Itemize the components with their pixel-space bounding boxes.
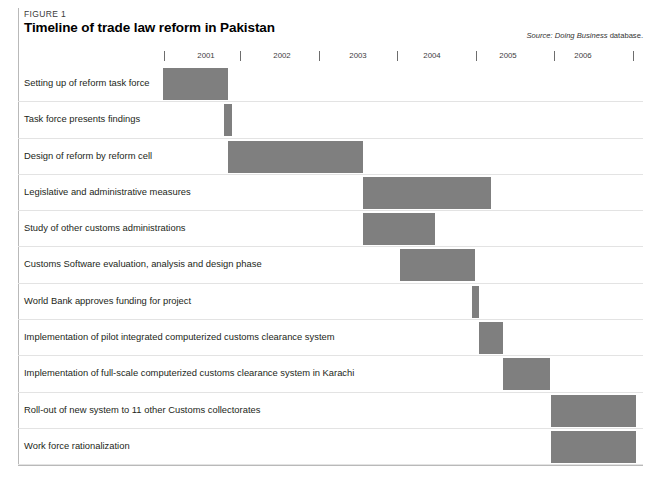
gantt-row-label: Roll-out of new system to 11 other Custo…	[24, 404, 260, 416]
gantt-row-label: Customs Software evaluation, analysis an…	[24, 258, 262, 270]
gantt-bar[interactable]	[400, 249, 475, 281]
gantt-bar[interactable]	[503, 358, 550, 390]
gantt-bar[interactable]	[224, 104, 232, 136]
gantt-bar[interactable]	[163, 68, 228, 100]
gantt-row-label: Implementation of pilot integrated compu…	[24, 331, 335, 343]
gantt-row[interactable]: World Bank approves funding for project	[0, 284, 661, 320]
axis-tick	[240, 51, 241, 61]
axis-year-label: 2003	[328, 50, 388, 61]
gantt-row[interactable]: Task force presents findings	[0, 102, 661, 138]
axis-year-label: 2001	[176, 50, 236, 61]
source-prefix: Source:	[526, 31, 552, 40]
source-suffix: database.	[610, 31, 643, 40]
gantt-row-label: Setting up of reform task force	[24, 77, 150, 89]
gantt-row-label: Study of other customs administrations	[24, 222, 186, 234]
axis-year-label: 2006	[553, 50, 613, 61]
gantt-bar[interactable]	[551, 431, 636, 463]
figure-title: Timeline of trade law reform in Pakistan	[24, 20, 275, 36]
gantt-row[interactable]: Legislative and administrative measures	[0, 175, 661, 211]
gantt-row[interactable]: Work force rationalization	[0, 429, 661, 465]
axis-tick	[319, 51, 320, 61]
figure-source-note: Source: Doing Business database.	[526, 31, 643, 41]
gantt-bar[interactable]	[228, 141, 363, 173]
axis-tick	[397, 51, 398, 61]
row-separator	[18, 464, 643, 465]
gantt-bar[interactable]	[551, 395, 636, 427]
axis-tick	[633, 51, 634, 61]
figure-number-label: FIGURE 1	[24, 9, 66, 19]
axis-year-label: 2004	[402, 50, 462, 61]
gantt-row[interactable]: Customs Software evaluation, analysis an…	[0, 247, 661, 283]
gantt-row[interactable]: Implementation of pilot integrated compu…	[0, 320, 661, 356]
gantt-row[interactable]: Study of other customs administrations	[0, 211, 661, 247]
gantt-row[interactable]: Implementation of full-scale computerize…	[0, 356, 661, 392]
gantt-row-label: World Bank approves funding for project	[24, 295, 191, 307]
gantt-row-label: Work force rationalization	[24, 440, 130, 452]
gantt-bar[interactable]	[479, 322, 503, 354]
gantt-bar[interactable]	[363, 213, 435, 245]
source-publication-name: Doing Business	[555, 31, 608, 40]
gantt-row-label: Legislative and administrative measures	[24, 186, 191, 198]
figure-container: FIGURE 1 Timeline of trade law reform in…	[0, 0, 661, 483]
gantt-row[interactable]: Roll-out of new system to 11 other Custo…	[0, 393, 661, 429]
gantt-row-label: Task force presents findings	[24, 113, 140, 125]
timeline-axis: 200120022003200420052006	[0, 48, 661, 64]
gantt-bar[interactable]	[472, 286, 479, 318]
axis-year-label: 2002	[252, 50, 312, 61]
axis-tick	[164, 51, 165, 61]
gantt-row-label: Design of reform by reform cell	[24, 150, 152, 162]
axis-tick	[476, 51, 477, 61]
gantt-bar[interactable]	[363, 177, 491, 209]
gantt-row[interactable]: Design of reform by reform cell	[0, 139, 661, 175]
gantt-row[interactable]: Setting up of reform task force	[0, 66, 661, 102]
axis-year-label: 2005	[478, 50, 538, 61]
gantt-row-label: Implementation of full-scale computerize…	[24, 367, 354, 379]
gantt-rows: Setting up of reform task forceTask forc…	[0, 66, 661, 465]
